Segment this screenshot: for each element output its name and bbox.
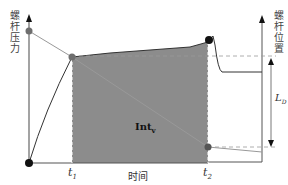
t1-dot [69,54,76,61]
area-label: Intv [135,121,156,135]
t1-label: t1 [68,166,77,181]
t2-dot [205,144,212,151]
right-axis-label: 螺杆位置 [270,10,285,54]
origin-dot [25,159,33,167]
pressure-axis-arrow-icon [26,14,32,22]
left-axis-label: 螺杆压力 [6,10,21,54]
position-axis-arrow-icon [259,15,265,23]
distance-arrow-down-icon [268,140,274,147]
t2-label: t2 [203,166,212,181]
x-axis-label: 时间 [128,168,148,183]
distance-label: LD [275,92,286,105]
pressure-position-diagram [0,0,288,185]
start-position-dot [26,28,33,35]
peak-dot [205,36,213,44]
distance-arrow-up-icon [268,58,274,65]
